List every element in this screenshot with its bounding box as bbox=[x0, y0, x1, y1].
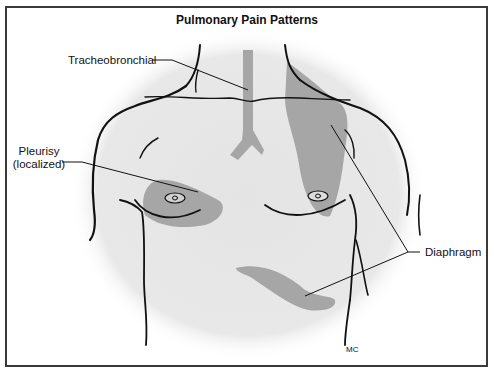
label-tracheobronchial: Tracheobronchial bbox=[68, 54, 156, 67]
artist-signature: MC bbox=[346, 345, 358, 354]
label-pleurisy: Pleurisy (localized) bbox=[8, 145, 70, 171]
label-diaphragm: Diaphragm bbox=[425, 246, 481, 259]
label-pleurisy-line1: Pleurisy bbox=[8, 145, 70, 158]
label-pleurisy-line2: (localized) bbox=[8, 158, 70, 171]
